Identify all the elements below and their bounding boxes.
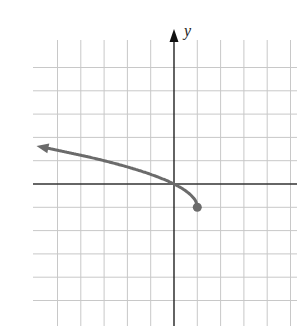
curve-arrow-icon (37, 143, 50, 153)
endpoint-dot (193, 203, 202, 212)
graph (0, 0, 307, 326)
y-axis-label: y (184, 22, 191, 40)
y-axis-arrow-icon (170, 29, 179, 42)
